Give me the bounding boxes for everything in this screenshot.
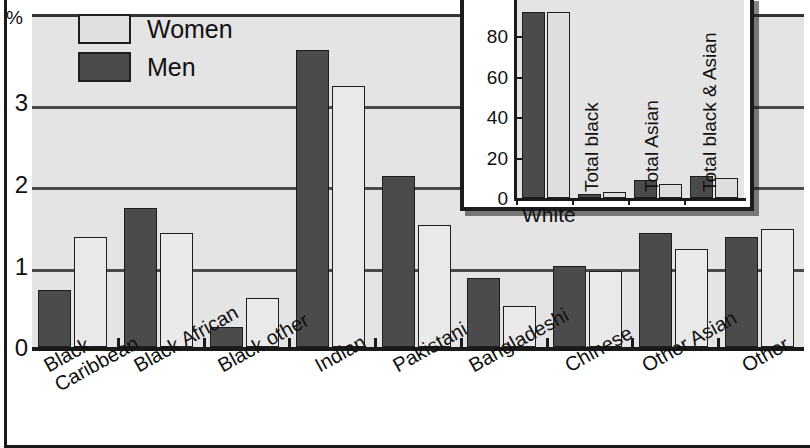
legend-item-women: Women — [78, 10, 233, 48]
legend-swatch-women-icon — [78, 14, 131, 44]
inset-bar-women-0 — [547, 12, 570, 198]
bar-men-1 — [124, 208, 157, 347]
inset-y-tick-60 — [514, 77, 522, 79]
inset-y-tick-label-20: 20 — [468, 149, 508, 168]
inset-category-label-2: Total Asian — [642, 100, 661, 192]
inset-x-tick-3 — [684, 198, 686, 205]
legend-label-women: Women — [147, 17, 233, 42]
inset-bar-men-0 — [522, 12, 545, 198]
inset-x-tick-0 — [516, 198, 518, 205]
bar-men-4 — [382, 176, 415, 347]
x-axis-tick-3 — [374, 338, 377, 347]
inset-y-axis — [514, 0, 517, 200]
inset-y-tick-label-60: 60 — [468, 68, 508, 87]
inset-category-label-white: White — [522, 204, 576, 225]
inset-bar-women-2 — [659, 184, 682, 198]
inset-category-label-1: Total black — [582, 102, 601, 192]
bar-men-7 — [639, 233, 672, 347]
bar-men-0 — [38, 290, 71, 347]
inset-y-tick-20 — [514, 158, 522, 160]
x-axis-tick-5 — [546, 338, 549, 347]
bar-women-3 — [332, 86, 365, 347]
inset-chart: 020406080 WhiteTotal blackTotal AsianTot… — [460, 0, 754, 211]
inset-x-tick-2 — [628, 198, 630, 205]
legend-swatch-men-icon — [78, 52, 131, 82]
x-axis-tick-7 — [717, 338, 720, 347]
inset-y-tick-label-80: 80 — [468, 27, 508, 46]
inset-x-axis — [514, 198, 746, 201]
inset-y-tick-80 — [514, 36, 522, 38]
bar-men-3 — [296, 50, 329, 347]
y-axis-unit-label: % — [6, 8, 23, 27]
legend-item-men: Men — [78, 48, 233, 86]
chart-figure: % 3 2 1 0 Women Men Black CaribbeanBlack… — [0, 0, 810, 448]
inset-y-tick-label-40: 40 — [468, 108, 508, 127]
legend-label-men: Men — [147, 55, 196, 80]
inset-category-label-3: Total black & Asian — [700, 33, 719, 192]
legend: Women Men — [78, 10, 233, 86]
inset-y-tick-label-0: 0 — [468, 189, 508, 208]
x-axis-category-labels: Black CaribbeanBlack AfricanBlack otherI… — [0, 349, 810, 448]
bar-women-8 — [761, 229, 794, 347]
bar-men-5 — [467, 278, 500, 347]
inset-y-tick-40 — [514, 117, 522, 119]
